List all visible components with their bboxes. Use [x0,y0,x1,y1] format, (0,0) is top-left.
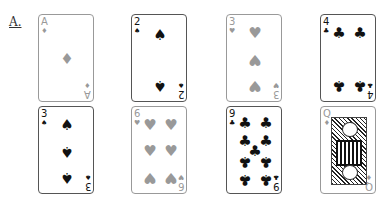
heart-icon: ♥ [229,28,235,35]
card-index-bottom: 2♠ [178,81,184,99]
card-index-top: 3♠ [41,109,47,127]
diamond-icon: ♦ [366,173,372,180]
card-index-bottom: Q♦ [365,173,373,191]
heart-icon: ♥ [273,81,279,88]
diamond-icon: ♦ [324,120,330,127]
club-icon: ♣ [323,28,329,35]
spade-icon: ♠ [178,81,184,88]
diamond-icon: ♦ [60,52,73,67]
heart-icon: ♥ [134,120,140,127]
spade-icon: ♠ [153,28,166,43]
club-icon: ♣ [259,172,272,187]
card-index-bottom: A♦ [84,81,91,99]
card-index-top: Q♦ [323,109,331,127]
card-nine-of-clubs: 9♣ ♣ ♣ ♣ ♣ ♣ ♣ ♣ ♣ ♣ 9♣ [226,106,282,194]
club-icon: ♣ [238,116,251,131]
card-ace-of-diamonds: A♦ ♦ A♦ [38,14,94,102]
club-icon: ♣ [332,78,345,93]
heart-icon: ♥ [143,170,156,185]
spade-icon: ♠ [60,118,73,133]
heart-icon: ♥ [178,173,184,180]
queen-portrait [331,117,367,185]
heart-icon: ♥ [164,170,177,185]
club-icon: ♣ [259,154,272,169]
card-three-of-spades: 3♠ ♠ ♠ ♠ 3♠ [38,106,94,194]
heart-icon: ♥ [164,144,177,159]
heart-icon: ♥ [248,52,261,67]
card-queen-of-diamonds: Q♦ Q♦ [320,106,376,194]
spade-icon: ♠ [41,120,47,127]
figure-label: A. [9,15,21,29]
heart-icon: ♥ [143,144,156,159]
heart-icon: ♥ [143,118,156,133]
diamond-icon: ♦ [84,81,90,88]
club-icon: ♣ [353,26,366,41]
heart-icon: ♥ [248,78,261,93]
heart-icon: ♥ [164,118,177,133]
spade-icon: ♠ [60,170,73,185]
club-icon: ♣ [229,120,235,127]
card-index-top: 3♥ [229,17,235,35]
club-icon: ♣ [259,116,272,131]
card-four-of-clubs: 4♣ ♣ ♣ ♣ ♣ 4♣ [320,14,376,102]
spade-icon: ♠ [134,28,140,35]
club-icon: ♣ [332,26,345,41]
heart-icon: ♥ [248,26,261,41]
card-index-top: 2♠ [134,17,140,35]
club-icon: ♣ [367,81,373,88]
club-icon: ♣ [238,154,251,169]
card-index-top: A♦ [41,17,48,35]
card-two-of-spades: 2♠ ♠ ♠ 2♠ [131,14,187,102]
card-index-top: 4♣ [323,17,329,35]
club-icon: ♣ [273,173,279,180]
queen-robe-band [336,140,362,165]
card-index-top: 6♥ [134,109,140,127]
queen-head-bottom [342,165,358,180]
card-index-bottom: 9♣ [273,173,279,191]
club-icon: ♣ [353,78,366,93]
card-index-bottom: 3♥ [273,81,279,99]
card-index-bottom: 6♥ [178,173,184,191]
spade-icon: ♠ [60,144,73,159]
diamond-icon: ♦ [41,28,47,35]
card-index-bottom: 4♣ [367,81,373,99]
card-six-of-hearts: 6♥ ♥ ♥ ♥ ♥ ♥ ♥ 6♥ [131,106,187,194]
card-three-of-hearts: 3♥ ♥ ♥ ♥ 3♥ [226,14,282,102]
card-index-bottom: 3♠ [85,173,91,191]
spade-icon: ♠ [153,78,166,93]
queen-head-top [342,122,358,137]
card-index-top: 9♣ [229,109,235,127]
club-icon: ♣ [238,172,251,187]
spade-icon: ♠ [85,173,91,180]
